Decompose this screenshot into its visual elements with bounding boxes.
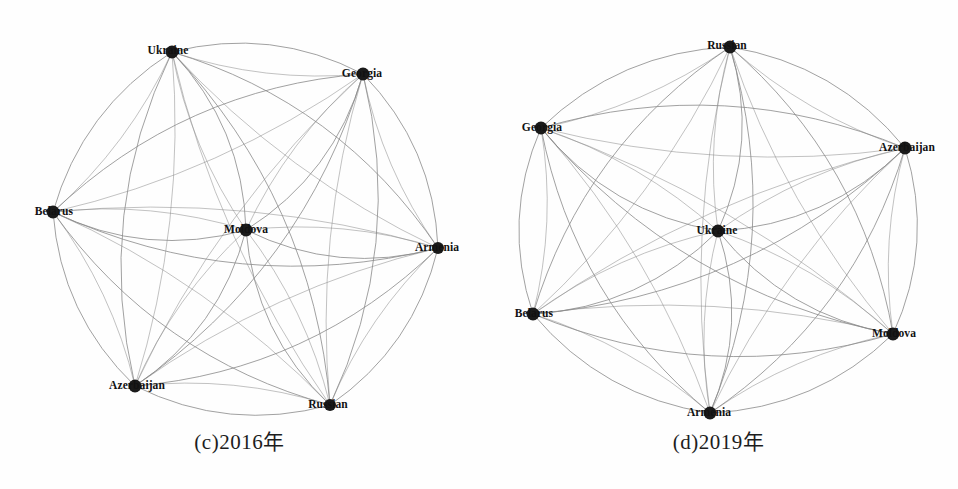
edge-russian-moldova	[246, 230, 330, 405]
node-armenia[interactable]	[704, 407, 717, 420]
edge-moldova-armenia	[710, 334, 893, 413]
edge-georgia-armenia	[363, 74, 438, 248]
edge-russian-moldova	[730, 47, 893, 334]
edge-armenia-azerbaijan	[135, 248, 438, 386]
edge-russian-azerbaijan	[135, 383, 330, 405]
edge-ukraine-belarus	[53, 52, 172, 212]
edge-russian-belarus	[53, 212, 330, 405]
node-ukraine[interactable]	[712, 225, 725, 238]
edge-azerbaijan-belarus	[53, 212, 135, 386]
edge-azerbaijan-moldova	[893, 148, 917, 334]
edge-armenia-belarus	[533, 314, 710, 413]
edge-georgia-ukraine	[541, 128, 718, 231]
edge-georgia-armenia	[363, 74, 438, 248]
edge-georgia-moldova	[246, 74, 363, 230]
edge-russian-belarus	[533, 47, 730, 314]
panel-2016: UkraineGeorgiaArmeniaRussianAzerbaijanBe…	[0, 0, 479, 489]
edge-armenia-russian	[330, 248, 438, 405]
edge-moldova-armenia	[710, 334, 893, 413]
edge-ukraine-azerbaijan	[121, 52, 172, 386]
edge-armenia-moldova	[246, 227, 438, 248]
edge-russian-georgia	[541, 47, 730, 128]
edge-belarus-ukraine	[533, 231, 718, 314]
edge-georgia-russian	[326, 74, 363, 405]
edge-armenia-georgia	[541, 128, 710, 413]
edge-georgia-moldova	[246, 74, 363, 230]
caption-2019: (d)2019年	[479, 425, 958, 455]
figure-network-diagrams: UkraineGeorgiaArmeniaRussianAzerbaijanBe…	[0, 0, 958, 489]
node-moldova[interactable]	[240, 224, 253, 237]
edge-azerbaijan-moldova	[888, 148, 905, 334]
edge-georgia-ukraine	[541, 128, 718, 231]
edge-azerbaijan-georgia	[541, 128, 905, 157]
edge-armenia-azerbaijan	[135, 248, 438, 386]
edge-armenia-georgia	[541, 128, 710, 413]
edge-ukraine-belarus	[53, 52, 172, 212]
edge-georgia-belarus	[53, 74, 363, 212]
edge-azerbaijan-moldova	[135, 230, 246, 386]
node-georgia[interactable]	[535, 122, 548, 135]
edge-moldova-ukraine	[718, 231, 893, 334]
edge-ukraine-azerbaijan	[135, 52, 175, 386]
edge-armenia-belarus	[533, 314, 710, 413]
edge-russian-azerbaijan	[730, 47, 905, 148]
edge-azerbaijan-ukraine	[718, 148, 905, 231]
node-ukraine[interactable]	[166, 46, 179, 59]
edge-armenia-moldova	[246, 230, 438, 258]
panel-2019: RussianAzerbaijanMoldovaArmeniaBelarusGe…	[479, 0, 958, 489]
caption-2016: (c)2016年	[0, 425, 479, 455]
edge-ukraine-moldova	[172, 52, 246, 230]
edge-georgia-belarus	[53, 74, 363, 212]
edge-azerbaijan-moldova	[135, 230, 246, 386]
edge-belarus-georgia	[533, 128, 547, 314]
edge-armenia-ukraine	[704, 231, 718, 413]
edge-moldova-ukraine	[718, 231, 893, 334]
edge-russian-belarus	[533, 47, 730, 314]
edge-moldova-belarus	[533, 314, 893, 357]
edge-russian-belarus	[53, 212, 330, 405]
edge-russian-azerbaijan	[135, 386, 330, 415]
node-russian[interactable]	[724, 41, 737, 54]
edge-ukraine-moldova	[172, 52, 246, 230]
edge-azerbaijan-armenia	[710, 148, 905, 413]
edge-russian-moldova	[246, 230, 330, 405]
edge-ukraine-georgia	[172, 43, 363, 74]
edge-azerbaijan-ukraine	[718, 148, 905, 231]
edge-russian-moldova	[730, 47, 893, 334]
edge-azerbaijan-armenia	[710, 148, 905, 413]
graph-canvas-2016	[0, 0, 479, 430]
edge-belarus-georgia	[519, 128, 541, 314]
node-russian[interactable]	[324, 399, 336, 411]
node-azerbaijan[interactable]	[129, 380, 142, 393]
edge-azerbaijan-belarus	[53, 212, 135, 386]
edge-russian-azerbaijan	[730, 47, 905, 148]
node-azerbaijan[interactable]	[899, 142, 912, 155]
edge-ukraine-georgia	[172, 52, 363, 76]
edge-russian-ukraine	[713, 47, 730, 231]
node-moldova[interactable]	[887, 328, 900, 341]
node-armenia[interactable]	[432, 242, 444, 254]
edge-russian-ukraine	[718, 47, 742, 231]
graph-canvas-2019	[479, 0, 958, 430]
edge-russian-georgia	[541, 47, 730, 128]
edge-belarus-ukraine	[533, 231, 718, 314]
node-belarus[interactable]	[527, 308, 540, 321]
node-georgia[interactable]	[357, 68, 370, 81]
edge-armenia-russian	[330, 248, 438, 405]
edge-belarus-moldova	[53, 209, 246, 230]
node-belarus[interactable]	[47, 206, 60, 219]
edge-belarus-moldova	[53, 212, 246, 241]
